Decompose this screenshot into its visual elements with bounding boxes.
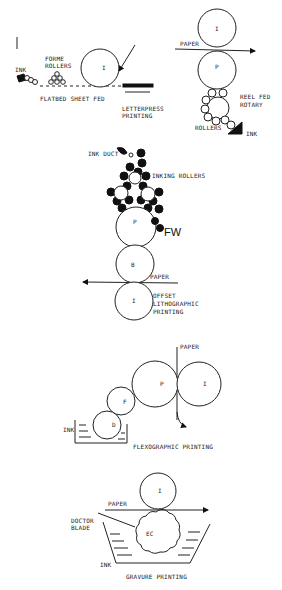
gravure-title: GRAVURE PRINTING — [126, 573, 187, 580]
ductor-label: D — [112, 421, 116, 428]
reel-fed-title-2: ROTARY — [240, 101, 263, 108]
vibrator-roller — [141, 187, 155, 201]
forme-rollers-stack — [49, 72, 66, 85]
water-roller — [157, 225, 164, 232]
impression-label: I — [215, 25, 219, 32]
cylinder-label: I — [102, 64, 106, 71]
printing-processes-diagram: INK FORME ROLLERS I FLATBED SHEET FED LE… — [0, 0, 282, 590]
forme-rollers-label-2: ROLLERS — [45, 62, 72, 69]
blanket-label: B — [131, 261, 135, 268]
impression-label: I — [203, 380, 207, 387]
inking-rollers-label: INKING ROLLERS — [152, 172, 206, 179]
flexographic-diagram: PAPER P I F D INK FLEXOGRAPHIC PRINTING — [63, 343, 221, 450]
type-forme — [123, 84, 153, 87]
impression-cylinder — [177, 362, 221, 406]
rotation-arrow — [119, 45, 135, 71]
ink-duct-label: INK DUCT — [88, 150, 119, 157]
blanket-cylinder — [116, 245, 154, 283]
paper-exit-arrow — [177, 412, 186, 427]
water-roller — [152, 218, 159, 225]
impression-label: I — [132, 297, 136, 304]
paper-label: PAPER — [150, 273, 169, 280]
offset-title-3: PRINTING — [153, 308, 184, 315]
reel-fed-title-1: REEL FED — [240, 93, 271, 100]
flexo-title: FLEXOGRAPHIC PRINTING — [133, 443, 213, 450]
letterpress-title-1: LETTERPRESS — [122, 105, 164, 112]
engraved-cylinder — [136, 509, 180, 553]
ink-duct-icon — [117, 148, 127, 155]
plate-label: P — [133, 218, 137, 225]
ductor-roller — [93, 411, 121, 439]
forme-rollers-label-1: FORME — [45, 55, 64, 62]
fountain-roller — [107, 387, 135, 415]
rollers-label: ROLLERS — [195, 124, 222, 131]
doctor-blade-label-2: BLADE — [71, 524, 90, 531]
letterpress-diagram: INK FORME ROLLERS I FLATBED SHEET FED LE… — [15, 37, 164, 119]
offset-title-1: OFFSET — [153, 292, 176, 299]
vibrator-roller — [114, 186, 128, 200]
reel-fed-diagram: I PAPER P REEL FED ROTARY ROLLERS INK — [175, 9, 271, 137]
engraved-cylinder-label: EC — [146, 530, 154, 537]
offset-diagram: INK DUCT INKING ROLLERS P — [83, 148, 206, 320]
gravure-diagram: I EC PAPER DOCTOR BLADE INK GRAVURE PRIN… — [71, 473, 210, 580]
plate-cylinder — [198, 51, 236, 89]
offset-title-2: LITHOGRAPHIC — [153, 300, 199, 307]
ink-roller — [33, 80, 38, 85]
paper-label: PAPER — [108, 500, 127, 507]
doctor-blade-label-1: DOCTOR — [71, 517, 94, 524]
ink-label: INK — [15, 66, 27, 73]
paper-label: PAPER — [180, 343, 199, 350]
flatbed-label: FLATBED SHEET FED — [40, 95, 105, 102]
plate-label: P — [160, 380, 164, 387]
ink-label: INK — [63, 426, 75, 433]
impression-cylinder — [81, 49, 119, 87]
fw-label: FW — [164, 226, 182, 238]
ink-label: INK — [100, 561, 112, 568]
reel-ink-label: INK — [246, 130, 258, 137]
plate-cylinder — [132, 361, 178, 407]
plate-cylinder — [116, 207, 156, 247]
impression-label: I — [158, 487, 162, 494]
letterpress-title-2: PRINTING — [122, 112, 153, 119]
paper-label: PAPER — [180, 40, 199, 47]
plate-label: P — [215, 63, 219, 70]
vibrator-roller — [129, 172, 141, 184]
fountain-label: F — [123, 398, 127, 405]
ductor-roller — [129, 153, 133, 157]
